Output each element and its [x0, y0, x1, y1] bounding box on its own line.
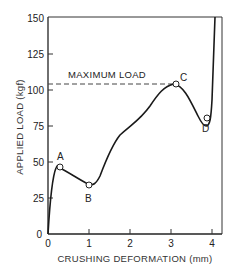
max-load-label: MAXIMUM LOAD: [68, 69, 146, 80]
y-axis-tick-labels: 0 25 50 75 100 125 150: [27, 13, 44, 240]
y-tick-50: 50: [33, 157, 45, 168]
point-a-label: A: [57, 151, 64, 162]
x-axis-ticks: [89, 229, 212, 234]
y-tick-150: 150: [27, 13, 44, 24]
x-tick-2: 2: [127, 238, 133, 249]
x-axis-tick-labels: 0 1 2 3 4: [45, 238, 215, 249]
x-tick-1: 1: [86, 238, 92, 249]
x-tick-3: 3: [168, 238, 174, 249]
x-axis-label: CRUSHING DEFORMATION (mm): [57, 253, 212, 264]
y-tick-75: 75: [33, 121, 45, 132]
point-b-marker: [86, 182, 92, 188]
point-b-label: B: [85, 193, 92, 204]
chart: 0 25 50 75 100 125 150 0 1 2 3 4 CRUSHIN…: [0, 0, 234, 275]
point-a-marker: [57, 164, 63, 170]
y-tick-100: 100: [27, 85, 44, 96]
x-tick-4: 4: [209, 238, 215, 249]
y-tick-125: 125: [27, 49, 44, 60]
y-tick-0: 0: [36, 229, 42, 240]
point-c-label: C: [180, 72, 187, 83]
y-tick-25: 25: [33, 193, 45, 204]
x-tick-0: 0: [45, 238, 51, 249]
curve-points: [57, 81, 210, 188]
load-curve: [48, 17, 215, 234]
point-c-marker: [173, 81, 179, 87]
point-d-marker: [204, 115, 210, 121]
y-axis-ticks: [48, 54, 53, 198]
plot-frame: [48, 17, 222, 234]
y-axis-label: APPLIED LOAD (kgf): [14, 79, 25, 175]
point-d-label: D: [202, 123, 209, 134]
